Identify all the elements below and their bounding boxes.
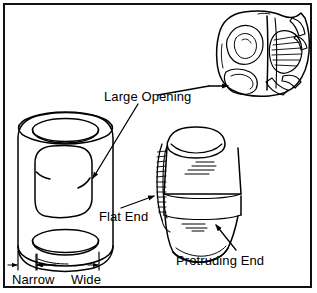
label-wide: Wide <box>71 272 101 287</box>
spool-roller-part <box>157 127 241 262</box>
leader-large-opening-to-cup <box>93 104 138 178</box>
bearing-cup-part <box>18 112 113 271</box>
dimension-narrow <box>8 251 46 270</box>
label-large-opening: Large Opening <box>104 89 191 104</box>
figure-root: Large Opening Flat End Protruding End Na… <box>0 0 317 293</box>
yoke-part <box>217 11 310 96</box>
label-flat-end: Flat End <box>99 209 148 224</box>
leader-flat-end <box>121 196 154 208</box>
label-narrow: Narrow <box>12 272 55 287</box>
illustration-artwork <box>0 0 317 293</box>
label-protruding-end: Protruding End <box>176 253 264 268</box>
